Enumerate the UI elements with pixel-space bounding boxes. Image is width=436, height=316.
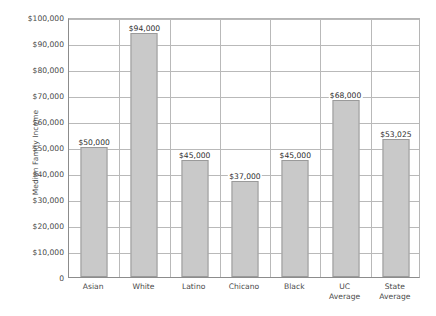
bar[interactable] [382,139,409,277]
y-tick-label: $90,000 [2,40,64,49]
y-tick-label: $100,000 [2,14,64,23]
bar-slot: $94,000 [119,19,169,277]
x-tick-label: Latino [169,282,219,292]
plot-area: $50,000$94,000$45,000$37,000$45,000$68,0… [68,18,420,278]
bar[interactable] [181,160,208,277]
y-tick-label: 0 [2,274,64,283]
x-tick-label: Black [269,282,319,292]
bar-value-label: $45,000 [178,151,212,160]
bar-value-label: $53,025 [379,130,413,139]
bar[interactable] [131,33,158,277]
figure-caption [68,309,388,316]
bar-slot: $53,025 [371,19,421,277]
y-axis-tick-labels: 0$10,000$20,000$30,000$40,000$50,000$60,… [0,0,64,316]
bar[interactable] [332,100,359,277]
bar-chart-figure: Median Family Income 0$10,000$20,000$30,… [0,0,436,316]
bar-slot: $50,000 [69,19,119,277]
x-tick-label: Chicano [219,282,269,292]
x-tick-label: StateAverage [370,282,420,301]
x-tick-label: UCAverage [319,282,369,301]
y-tick-label: $80,000 [2,66,64,75]
bar-slot: $45,000 [270,19,320,277]
x-tick-label: White [118,282,168,292]
bar-value-label: $37,000 [228,172,262,181]
bar-value-label: $45,000 [278,151,312,160]
bar-value-label: $50,000 [77,138,111,147]
bar-value-label: $68,000 [328,91,362,100]
y-tick-label: $50,000 [2,144,64,153]
bars-layer: $50,000$94,000$45,000$37,000$45,000$68,0… [69,19,419,277]
bar-slot: $37,000 [220,19,270,277]
bar-slot: $68,000 [320,19,370,277]
bar[interactable] [282,160,309,277]
x-axis-tick-labels: AsianWhiteLatinoChicanoBlackUCAverageSta… [68,282,420,312]
y-tick-label: $20,000 [2,222,64,231]
bar-slot: $45,000 [170,19,220,277]
x-tick-label: Asian [68,282,118,292]
y-tick-label: $30,000 [2,196,64,205]
bar-value-label: $94,000 [127,24,161,33]
y-tick-label: $10,000 [2,248,64,257]
y-tick-label: $70,000 [2,92,64,101]
bar[interactable] [231,181,258,277]
y-tick-label: $40,000 [2,170,64,179]
y-tick-label: $60,000 [2,118,64,127]
bar[interactable] [81,147,108,277]
